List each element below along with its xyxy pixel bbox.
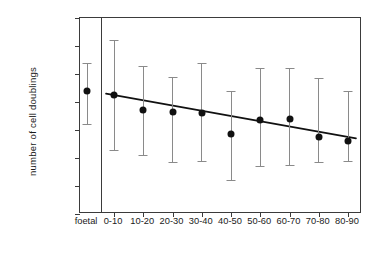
error-bar-cap bbox=[256, 166, 265, 167]
error-bar-cap bbox=[168, 77, 177, 78]
error-bar-cap bbox=[285, 165, 294, 166]
x-axis-label-40-50: 40-50 bbox=[218, 216, 242, 226]
error-bar-cap bbox=[110, 150, 119, 151]
data-point-40-50 bbox=[228, 131, 235, 138]
error-bar-cap bbox=[83, 63, 92, 64]
y-axis-title: number of cell doublings bbox=[27, 22, 38, 222]
error-bar-cap bbox=[227, 180, 236, 181]
error-bar-cap bbox=[139, 155, 148, 156]
x-axis-label-foetal: foetal bbox=[75, 216, 98, 226]
data-point-20-30 bbox=[169, 108, 176, 115]
plot-area bbox=[79, 17, 361, 213]
error-bar-cap bbox=[168, 162, 177, 163]
x-axis-label-60-70: 60-70 bbox=[277, 216, 301, 226]
error-bar bbox=[348, 91, 349, 161]
data-point-0-10 bbox=[111, 92, 118, 99]
data-point-70-80 bbox=[315, 134, 322, 141]
error-bar bbox=[172, 77, 173, 162]
x-axis-label-80-90: 80-90 bbox=[335, 216, 359, 226]
error-bar bbox=[318, 78, 319, 162]
x-axis-label-0-10: 0-10 bbox=[104, 216, 123, 226]
error-bar-cap bbox=[83, 124, 92, 125]
error-bar-cap bbox=[314, 78, 323, 79]
error-bar-cap bbox=[197, 161, 206, 162]
data-point-80-90 bbox=[345, 138, 352, 145]
x-axis-label-70-80: 70-80 bbox=[306, 216, 330, 226]
error-bar-cap bbox=[285, 68, 294, 69]
regression-line bbox=[80, 18, 362, 214]
error-bar-cap bbox=[314, 162, 323, 163]
x-axis-label-10-20: 10-20 bbox=[130, 216, 154, 226]
data-point-30-40 bbox=[198, 110, 205, 117]
x-axis-label-20-30: 20-30 bbox=[160, 216, 184, 226]
error-bar-cap bbox=[344, 91, 353, 92]
error-bar-cap bbox=[256, 68, 265, 69]
error-bar-cap bbox=[110, 40, 119, 41]
error-bar-cap bbox=[344, 161, 353, 162]
x-axis-label-50-60: 50-60 bbox=[247, 216, 271, 226]
data-point-foetal bbox=[84, 87, 91, 94]
x-axis-label-30-40: 30-40 bbox=[189, 216, 213, 226]
chart-figure: number of cell doublings 010203040506070… bbox=[0, 0, 381, 257]
data-point-60-70 bbox=[286, 115, 293, 122]
data-point-10-20 bbox=[140, 107, 147, 114]
error-bar-cap bbox=[139, 66, 148, 67]
data-point-50-60 bbox=[257, 117, 264, 124]
error-bar-cap bbox=[227, 91, 236, 92]
error-bar-cap bbox=[197, 63, 206, 64]
